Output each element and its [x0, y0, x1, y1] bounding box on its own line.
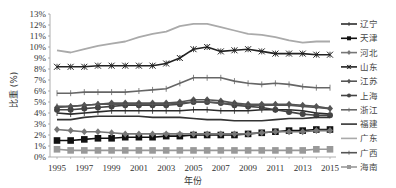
y-tick-label: 1%	[34, 141, 47, 151]
x-tick-label: 1995	[48, 163, 67, 173]
legend-label: 山东	[360, 62, 378, 72]
y-tick-label: 4%	[34, 108, 47, 118]
x-tick-label: 2011	[267, 163, 285, 173]
line-chart: 0%1%2%3%4%5%6%7%8%9%10%11%12%13% 1995199…	[0, 0, 396, 188]
x-tick-label: 2001	[130, 163, 148, 173]
legend-item: 广东	[341, 133, 378, 143]
legend-item: 福建	[341, 119, 378, 129]
y-axis-title: 比重 (%)	[8, 72, 19, 108]
legend-label: 海南	[360, 162, 378, 172]
legend-item: 山东	[341, 62, 378, 72]
legend-label: 辽宁	[360, 19, 378, 29]
series-浙江	[57, 75, 330, 96]
x-tick-label: 2003	[157, 163, 176, 173]
y-axis: 0%1%2%3%4%5%6%7%8%9%10%11%12%13%	[30, 9, 51, 162]
legend: 辽宁天津河北山东江苏上海浙江福建广东广西海南	[341, 19, 378, 172]
series-山东	[54, 44, 333, 70]
y-tick-label: 8%	[34, 64, 47, 74]
y-tick-label: 10%	[30, 42, 47, 52]
legend-label: 河北	[360, 48, 378, 58]
legend-item: 上海	[341, 91, 378, 101]
series-layer	[54, 24, 334, 154]
legend-label: 广西	[360, 148, 378, 158]
x-tick-label: 1999	[103, 163, 122, 173]
x-tick-label: 2005	[185, 163, 204, 173]
y-tick-label: 9%	[34, 53, 47, 63]
legend-item: 天津	[341, 33, 378, 43]
y-tick-label: 2%	[34, 130, 47, 140]
legend-label: 上海	[360, 91, 378, 101]
x-axis-title: 年份	[184, 175, 202, 186]
y-tick-label: 3%	[34, 119, 47, 129]
series-福建	[57, 116, 330, 120]
legend-label: 江苏	[360, 76, 378, 86]
x-tick-label: 2013	[294, 163, 313, 173]
x-tick-label: 1997	[75, 163, 94, 173]
legend-item: 河北	[341, 48, 378, 58]
x-axis: 1995199719992001200320052007200920112013…	[48, 157, 340, 173]
legend-item: 浙江	[341, 105, 378, 115]
legend-label: 天津	[360, 33, 378, 43]
x-tick-label: 2015	[321, 163, 340, 173]
y-tick-label: 7%	[34, 75, 47, 85]
legend-label: 浙江	[360, 105, 378, 115]
legend-label: 福建	[360, 119, 378, 129]
y-tick-label: 12%	[30, 20, 47, 30]
legend-item: 海南	[341, 162, 378, 172]
legend-label: 广东	[360, 133, 378, 143]
y-tick-label: 0%	[34, 152, 47, 162]
y-tick-label: 5%	[34, 97, 47, 107]
y-tick-label: 13%	[30, 9, 47, 19]
x-tick-label: 2007	[212, 163, 231, 173]
legend-item: 江苏	[341, 76, 378, 86]
y-tick-label: 11%	[30, 31, 47, 41]
x-tick-label: 2009	[239, 163, 258, 173]
legend-item: 辽宁	[341, 19, 378, 29]
legend-item: 广西	[341, 148, 378, 158]
series-海南	[54, 146, 334, 154]
y-tick-label: 6%	[34, 86, 47, 96]
